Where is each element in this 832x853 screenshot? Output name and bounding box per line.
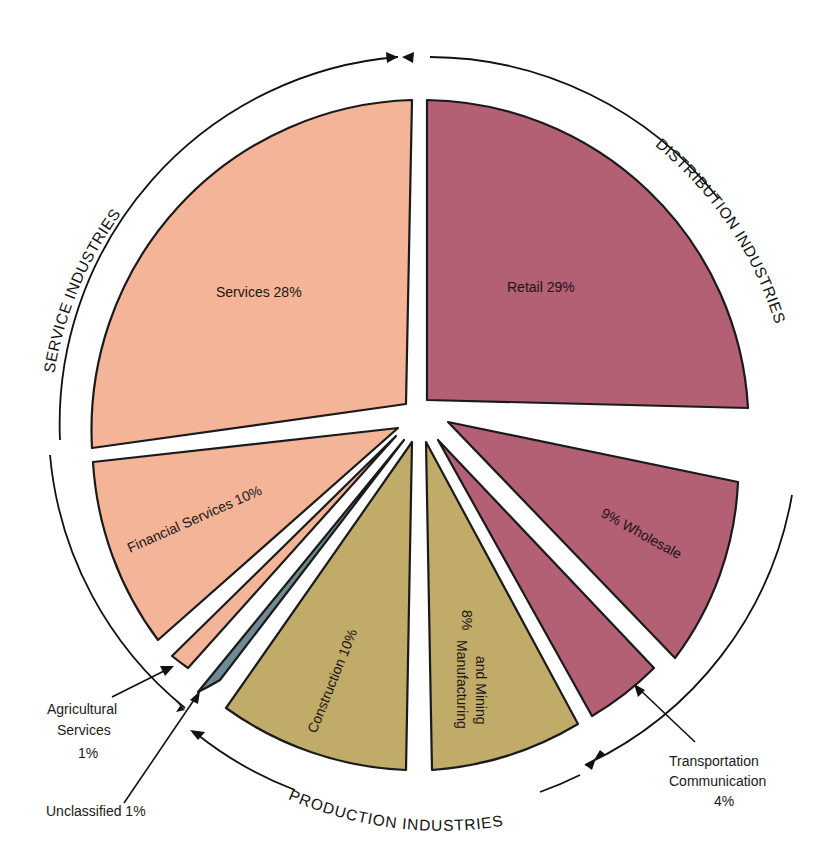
svg-text:1%: 1% bbox=[78, 745, 98, 761]
svg-text:Agricultural: Agricultural bbox=[47, 701, 117, 717]
slice-retail bbox=[427, 100, 748, 408]
svg-text:Unclassified 1%: Unclassified 1% bbox=[46, 803, 146, 819]
label-services: Services 28% bbox=[216, 284, 302, 300]
svg-text:Services: Services bbox=[57, 722, 111, 738]
arrowhead-icon bbox=[386, 52, 398, 63]
pie-slices bbox=[92, 100, 748, 770]
svg-text:Transportation: Transportation bbox=[669, 753, 759, 769]
group-label-production: PRODUCTION INDUSTRIES bbox=[287, 786, 505, 834]
pie-chart: Services 28% Retail 29% Financial Servic… bbox=[0, 0, 832, 853]
label-manufacturing-line1: Manufacturing bbox=[454, 640, 470, 729]
svg-text:4%: 4% bbox=[714, 793, 734, 809]
arrowhead-icon bbox=[173, 697, 185, 712]
label-manufacturing-pct: 8% bbox=[459, 610, 475, 630]
arrowhead-icon bbox=[402, 52, 414, 63]
label-manufacturing-line2: and Mining bbox=[473, 656, 489, 725]
svg-text:Communication: Communication bbox=[669, 773, 766, 789]
callout-transportation: Transportation Communication 4% bbox=[634, 684, 766, 809]
slice-services bbox=[92, 100, 412, 448]
label-retail: Retail 29% bbox=[507, 279, 575, 295]
